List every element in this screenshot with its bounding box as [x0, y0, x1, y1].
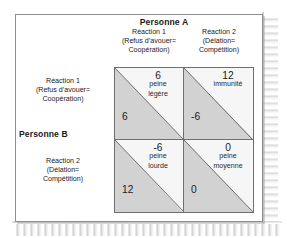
column-2-line-3: Compétition)	[184, 46, 254, 55]
column-1-line-1: Réaction 1	[114, 28, 184, 37]
page-edge-right-decoration	[262, 16, 278, 222]
payoff-a-note-line-2: moyenne	[207, 162, 249, 171]
payoff-person-b: 6	[122, 111, 128, 122]
matrix-cell-defect-defect: 0 peine moyenne 0	[184, 140, 253, 212]
column-label-reaction-2: Réaction 2 (Délation= Compétition)	[184, 28, 254, 56]
column-headers: Personne A Réaction 1 (Refus d’avouer= C…	[16, 17, 264, 56]
column-1-line-3: Coopération)	[114, 46, 184, 55]
page-edge-bottom-decoration	[14, 224, 280, 236]
scanned-page: Personne A Réaction 1 (Refus d’avouer= C…	[0, 0, 287, 238]
row-label-reaction-2: Réaction 2 (Délation= Compétition)	[16, 157, 110, 185]
payoff-a-value: -6	[137, 143, 179, 152]
payoff-matrix: 6 peine légère 6 12 immunité -6	[114, 67, 254, 213]
payoff-a-note-line-2: lourde	[137, 162, 179, 171]
payoff-a-value: 12	[207, 71, 249, 80]
column-2-line-2: (Délation=	[184, 37, 254, 46]
column-label-reaction-1: Réaction 1 (Refus d’avouer= Coopération)	[114, 28, 184, 56]
payoff-a-value: 0	[207, 143, 249, 152]
matrix-cell-defect-coop: -6 peine lourde 12	[115, 140, 184, 212]
payoff-person-b: 12	[122, 184, 133, 195]
person-b-title: Personne B	[19, 129, 68, 139]
row-2-line-1: Réaction 2	[16, 157, 110, 166]
payoff-person-a: 12 immunité	[207, 71, 249, 90]
payoff-a-note-line-1: peine	[137, 152, 179, 161]
row-2-line-3: Compétition)	[16, 175, 110, 184]
payoff-person-b: -6	[191, 111, 200, 122]
row-headers: Réaction 1 (Refus d’avouer= Coopération)…	[16, 67, 114, 213]
row-1-line-1: Réaction 1	[16, 77, 110, 86]
figure-frame: Personne A Réaction 1 (Refus d’avouer= C…	[15, 14, 263, 222]
row-1-line-3: Coopération)	[16, 95, 110, 104]
matrix-cell-coop-defect: 12 immunité -6	[184, 68, 253, 140]
column-2-line-1: Réaction 2	[184, 28, 254, 37]
payoff-person-a: -6 peine lourde	[137, 143, 179, 171]
row-1-line-2: (Refus d’avouer=	[16, 86, 110, 95]
payoff-person-a: 6 peine légère	[137, 71, 179, 99]
payoff-a-note-line-1: peine	[207, 152, 249, 161]
payoff-a-note-line-1: peine	[137, 80, 179, 89]
column-1-line-2: (Refus d’avouer=	[114, 37, 184, 46]
row-2-line-2: (Délation=	[16, 166, 110, 175]
payoff-a-note-line-1: immunité	[207, 80, 249, 89]
payoff-a-note-line-2: légère	[137, 90, 179, 99]
person-a-title: Personne A	[16, 17, 264, 28]
matrix-cell-coop-coop: 6 peine légère 6	[115, 68, 184, 140]
payoff-person-b: 0	[191, 184, 197, 195]
row-label-reaction-1: Réaction 1 (Refus d’avouer= Coopération)	[16, 77, 110, 105]
payoff-person-a: 0 peine moyenne	[207, 143, 249, 171]
payoff-a-value: 6	[137, 71, 179, 80]
column-label-row: Réaction 1 (Refus d’avouer= Coopération)…	[16, 28, 264, 56]
